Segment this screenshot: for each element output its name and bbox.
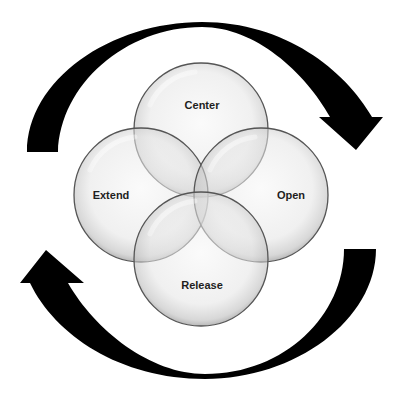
circle-release — [134, 192, 268, 326]
label-center: Center — [185, 99, 221, 111]
label-extend: Extend — [93, 189, 130, 201]
label-release: Release — [181, 279, 223, 291]
cycle-diagram: Center Extend Open Release — [0, 0, 404, 399]
label-open: Open — [277, 189, 305, 201]
